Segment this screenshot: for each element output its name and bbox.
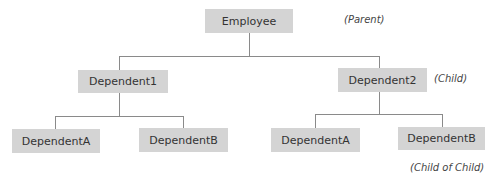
connector-to-right-dependenta <box>315 114 316 128</box>
connector-dependent2-down <box>379 92 380 114</box>
connector-to-dependent1 <box>119 56 120 70</box>
node-right-dependentb: DependentB <box>398 127 485 150</box>
annotation-child: (Child) <box>434 73 467 84</box>
node-right-dependenta-label: DependentA <box>281 134 350 147</box>
connector-to-left-dependenta <box>55 116 56 129</box>
connector-to-right-dependentb <box>442 114 443 127</box>
node-employee-label: Employee <box>222 15 276 28</box>
connector-to-dependent2 <box>379 56 380 68</box>
node-dependent2: Dependent2 <box>338 68 427 92</box>
connector-dependent1-down <box>119 93 120 116</box>
annotation-child-of-child: (Child of Child) <box>410 162 484 173</box>
node-left-dependenta-label: DependentA <box>22 135 91 148</box>
node-right-dependentb-label: DependentB <box>407 132 476 145</box>
connector-to-left-dependentb <box>183 116 184 128</box>
node-left-dependentb-label: DependentB <box>149 134 218 147</box>
connector-dependent2-horizontal <box>315 114 443 115</box>
connector-root-down <box>249 33 250 56</box>
connector-level1-horizontal <box>119 56 380 57</box>
node-dependent1-label: Dependent1 <box>89 75 157 88</box>
node-employee: Employee <box>205 9 293 33</box>
node-dependent2-label: Dependent2 <box>349 74 417 87</box>
annotation-parent: (Parent) <box>344 14 384 25</box>
node-right-dependenta: DependentA <box>271 128 360 152</box>
node-left-dependenta: DependentA <box>12 129 100 153</box>
node-dependent1: Dependent1 <box>78 70 168 93</box>
node-left-dependentb: DependentB <box>139 128 228 152</box>
connector-dependent1-horizontal <box>55 116 184 117</box>
